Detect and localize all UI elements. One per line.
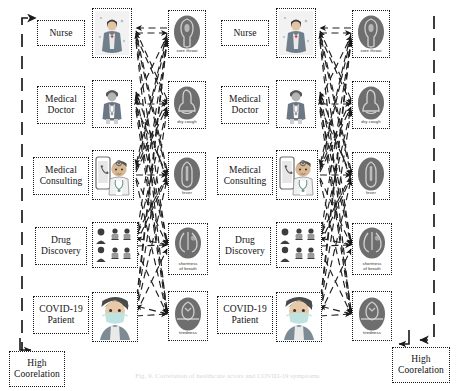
- symptom-tile-fever-left[interactable]: fever: [168, 152, 206, 200]
- symptom-caption-line1: tiredness: [353, 331, 391, 335]
- tiredness-icon: [174, 297, 202, 331]
- sore-throat-icon: [173, 15, 201, 49]
- sore-throat-icon: [357, 15, 385, 49]
- actor-label-medical-doctor-right[interactable]: Medical Doctor: [221, 86, 269, 124]
- symptom-tile-tiredness-left[interactable]: tiredness: [168, 291, 208, 341]
- covid-patient-icon: [94, 294, 136, 340]
- actor-label-line2: Consulting: [40, 176, 83, 187]
- symptom-caption-line1: fever: [169, 191, 205, 195]
- actor-label-nurse-left[interactable]: Nurse: [37, 20, 85, 46]
- tiredness-icon: [358, 297, 386, 331]
- actor-label-line2: Doctor: [229, 105, 261, 116]
- actor-label-drug-discovery-left[interactable]: Drug Discovery: [35, 227, 87, 265]
- actor-icon-tile-covid-patient-right[interactable]: [276, 292, 322, 342]
- actor-label-covid-patient-left[interactable]: COVID-19 Patient: [33, 296, 89, 334]
- actor-label-line1: Drug: [225, 235, 265, 246]
- actor-label-line1: Medical: [45, 94, 77, 105]
- symptom-caption-line2: of breath: [353, 267, 391, 271]
- actor-label-line1: COVID-19: [39, 304, 83, 315]
- doctor-icon: [279, 83, 313, 125]
- symptom-tile-shortness-of-breath-left[interactable]: shortness of breath: [168, 223, 208, 275]
- actor-label-medical-consulting-right[interactable]: Medical Consulting: [217, 157, 273, 195]
- symptom-caption-line1: fever: [353, 191, 389, 195]
- actor-label-line2: Doctor: [45, 105, 77, 116]
- actor-icon-tile-drug-discovery-right[interactable]: [276, 222, 322, 268]
- bottom-left-corner-arrow: [20, 338, 31, 350]
- actor-icon-tile-nurse-right[interactable]: [276, 8, 316, 58]
- symptom-tile-fever-right[interactable]: fever: [352, 152, 390, 200]
- legend-line1: High: [398, 354, 444, 365]
- fever-icon: [173, 157, 201, 191]
- actor-label-drug-discovery-right[interactable]: Drug Discovery: [219, 227, 271, 265]
- left-edges: [136, 28, 167, 316]
- actor-label-covid-patient-right[interactable]: COVID-19 Patient: [217, 296, 273, 334]
- nurse-icon: [279, 11, 313, 55]
- actor-icon-tile-covid-patient-left[interactable]: [92, 292, 138, 342]
- actor-label-line1: Medical: [229, 94, 261, 105]
- symptom-tile-shortness-of-breath-right[interactable]: shortness of breath: [352, 223, 392, 275]
- actor-label-line1: COVID-19: [223, 304, 267, 315]
- actor-label-line1: Drug: [41, 235, 81, 246]
- actor-label-line1: Nurse: [49, 28, 72, 39]
- symptom-tile-sore-throat-right[interactable]: sore throat: [352, 10, 390, 58]
- shortness-of-breath-icon: [174, 227, 202, 261]
- symptom-caption-line2: of breath: [169, 267, 207, 271]
- dry-cough-icon: [357, 86, 385, 120]
- actor-icon-tile-telemedicine-left[interactable]: [92, 150, 134, 200]
- covid-patient-icon: [278, 294, 320, 340]
- drug-discovery-icon: [278, 225, 320, 265]
- actor-icon-tile-nurse-left[interactable]: [92, 8, 132, 58]
- figure-caption: Fig. 9. Correlation of healthcare actors…: [0, 372, 456, 380]
- actor-label-line2: Discovery: [41, 246, 81, 257]
- actor-icon-tile-drug-discovery-left[interactable]: [92, 222, 138, 268]
- legend-high-correlation-left[interactable]: High Coorelation: [9, 351, 65, 387]
- actor-label-line2: Patient: [39, 315, 83, 326]
- actor-label-nurse-right[interactable]: Nurse: [221, 20, 269, 46]
- actor-label-medical-doctor-left[interactable]: Medical Doctor: [37, 86, 85, 124]
- actor-label-line1: Nurse: [233, 28, 256, 39]
- fever-icon: [357, 157, 385, 191]
- drug-discovery-icon: [94, 225, 136, 265]
- right-edges: [320, 28, 351, 316]
- symptom-caption-line1: dry cough: [353, 120, 389, 124]
- telemedicine-icon: [278, 153, 316, 197]
- bottom-right-corner-arrow: [399, 330, 409, 344]
- symptom-caption-line1: sore throat: [353, 49, 389, 53]
- actor-label-line1: Medical: [224, 165, 267, 176]
- actor-icon-tile-telemedicine-right[interactable]: [276, 150, 318, 200]
- shortness-of-breath-icon: [358, 227, 386, 261]
- dry-cough-icon: [173, 86, 201, 120]
- actor-label-line2: Consulting: [224, 176, 267, 187]
- actor-icon-tile-doctor-right[interactable]: [276, 80, 316, 128]
- correlation-diagram: Nurse Medical Doctor Medical Consulting …: [0, 0, 456, 391]
- symptom-tile-dry-cough-right[interactable]: dry cough: [352, 81, 390, 129]
- symptom-caption-line1: sore throat: [169, 49, 205, 53]
- actor-icon-tile-doctor-left[interactable]: [92, 80, 132, 128]
- nurse-icon: [95, 11, 129, 55]
- symptom-tile-tiredness-right[interactable]: tiredness: [352, 291, 392, 341]
- symptom-tile-dry-cough-left[interactable]: dry cough: [168, 81, 206, 129]
- symptom-caption-line1: dry cough: [169, 120, 205, 124]
- legend-line1: High: [14, 358, 60, 369]
- telemedicine-icon: [94, 153, 132, 197]
- actor-label-line1: Medical: [40, 165, 83, 176]
- actor-label-line2: Discovery: [225, 246, 265, 257]
- actor-label-medical-consulting-left[interactable]: Medical Consulting: [33, 157, 89, 195]
- symptom-tile-sore-throat-left[interactable]: sore throat: [168, 10, 206, 58]
- symptom-caption-line1: tiredness: [169, 331, 207, 335]
- doctor-icon: [95, 83, 129, 125]
- right-frame-arrow: [420, 16, 434, 340]
- actor-label-line2: Patient: [223, 315, 267, 326]
